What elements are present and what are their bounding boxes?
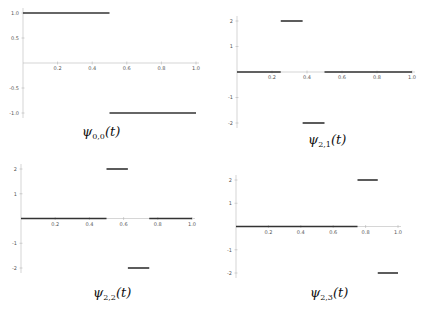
y-tick-label: -1 [228,94,233,100]
x-tick-label: 0.2 [268,74,276,80]
y-tick-label: 1 [230,43,233,49]
plot-2: 0.20.40.60.81.021-1-2 [12,164,196,273]
plot-caption: ψ0,0(t) [82,124,120,141]
x-tick-label: 0.8 [373,74,381,80]
x-tick-label: 0.8 [157,65,165,71]
x-tick-label: 0.6 [120,221,128,227]
x-tick-label: 0.6 [329,229,337,235]
y-tick-label: 2 [230,18,233,24]
x-tick-label: 0.6 [123,65,131,71]
plot-caption: ψ2,2(t) [93,285,131,302]
y-tick-label: -2 [12,265,17,271]
x-tick-label: 0.8 [362,229,370,235]
x-tick-label: 1.0 [188,221,196,227]
y-tick-label: -1 [12,240,17,246]
x-tick-label: 1.0 [408,74,416,80]
x-tick-label: 0.4 [88,65,96,71]
y-tick-label: 0.5 [11,35,19,41]
x-tick-label: 0.2 [54,65,62,71]
plot-caption: ψ2,1(t) [308,132,346,149]
plot-0: 0.20.40.60.81.01.00.5-0.5-1.0 [9,8,200,118]
y-tick-label: -1 [227,247,232,253]
y-tick-label: 1 [229,200,232,206]
y-tick-label: -1.0 [9,110,19,116]
y-tick-label: 1.0 [11,10,19,16]
y-tick-label: 2 [14,166,17,172]
x-tick-label: 0.8 [154,221,162,227]
x-tick-label: 1.0 [192,65,200,71]
wavelet-plots: 0.20.40.60.81.01.00.5-0.5-1.00.20.40.60.… [0,0,422,313]
x-tick-label: 0.4 [297,229,305,235]
plot-caption: ψ2,3(t) [310,285,348,302]
x-tick-label: 0.6 [338,74,346,80]
plot-3: 0.20.40.60.81.021-1-2 [227,175,402,278]
y-tick-label: 1 [14,191,17,197]
y-tick-label: -2 [228,120,233,126]
y-tick-label: -2 [227,270,232,276]
plot-1: 0.20.40.60.81.021-1-2 [228,16,416,128]
x-tick-label: 0.2 [51,221,59,227]
x-tick-label: 0.4 [303,74,311,80]
x-tick-label: 1.0 [394,229,402,235]
y-tick-label: -0.5 [9,85,19,91]
x-tick-label: 0.4 [85,221,93,227]
y-tick-label: 2 [229,177,232,183]
x-tick-label: 0.2 [264,229,272,235]
